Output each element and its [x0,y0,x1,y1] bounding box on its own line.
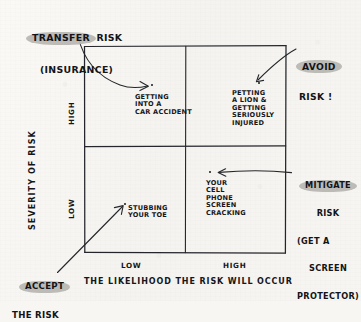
callout-transfer-risk-line1: TRANSFER RISK [29,33,122,44]
matrix-border-bottom [85,252,286,253]
mitigate-risk-arrow-line [219,171,292,173]
matrix-divider-horizontal [85,146,286,147]
callout-avoid-risk-line2: RISK ! [299,92,339,102]
avoid-risk-arrow-head [256,75,263,82]
x-axis-tick-high: HIGH [223,261,246,270]
quadrant-item-phone-screen: YOURCELLPHONESCREENCRACKING [206,180,246,217]
x-axis-title: THE LIKELIHOOD THE RISK WILL OCCUR [84,277,293,286]
callout-avoid-risk[interactable]: AVOID RISK ! [299,41,339,123]
mitigate-risk-arrow-head [218,169,226,176]
quadrant-item-petting-lion-line5: INJURED [232,119,264,127]
quadrant-item-petting-lion: PETTINGA LION &GETTINGSERIOUSLYINJURED [232,90,274,127]
callout-mitigate-risk[interactable]: MITIGATE RISK (GET A SCREEN PROTECTOR) [297,163,359,319]
avoid-risk-arrow-line [258,49,296,80]
callout-accept-risk[interactable]: ACCEPT THE RISK [12,263,67,322]
matrix-border-right [285,46,286,253]
quadrant-item-car-accident: GETTINGINTO ACAR ACCIDENT [135,94,192,116]
callout-mitigate-risk-line4: SCREEN [297,264,359,273]
callout-avoid-risk-highlight: AVOID [299,62,339,72]
y-axis-title: SEVERITY OF RISK [28,130,37,230]
callout-accept-risk-line1: ACCEPT [12,282,67,292]
y-axis-tick-high: HIGH [67,102,76,125]
callout-accept-risk-line2: THE RISK [12,311,67,321]
x-axis-tick-low: LOW [121,261,141,270]
callout-mitigate-risk-line2: RISK [297,209,359,218]
callout-transfer-risk-highlight: TRANSFER [29,33,93,44]
data-point-petting-lion [258,82,260,84]
accept-risk-arrow-head [114,206,123,215]
callout-transfer-risk-line2: (INSURANCE) [29,65,122,76]
callout-mitigate-risk-highlight: MITIGATE [302,181,354,190]
data-point-phone-screen [209,171,211,173]
quadrant-item-stubbing-toe-line2: YOUR TOE [128,211,167,219]
transfer-risk-arrow-head [140,82,149,91]
quadrant-item-phone-screen-line5: CRACKING [206,209,246,217]
callout-accept-risk-highlight: ACCEPT [22,282,67,292]
quadrant-item-stubbing-toe: STUBBINGYOUR TOE [128,205,168,220]
y-axis-tick-low: LOW [67,199,76,219]
callout-mitigate-risk-line5: PROTECTOR) [297,292,359,301]
quadrant-item-car-accident-line3: CAR ACCIDENT [135,108,192,116]
callout-mitigate-risk-line3: (GET A [297,237,359,246]
data-point-car-accident [151,84,153,86]
callout-transfer-risk-rest: RISK [93,32,123,43]
callout-transfer-risk[interactable]: TRANSFER RISK (INSURANCE) [29,12,122,96]
callout-mitigate-risk-line1: MITIGATE [297,181,359,190]
callout-avoid-risk-line1: AVOID [299,62,339,72]
data-point-stubbing-toe [124,203,126,205]
